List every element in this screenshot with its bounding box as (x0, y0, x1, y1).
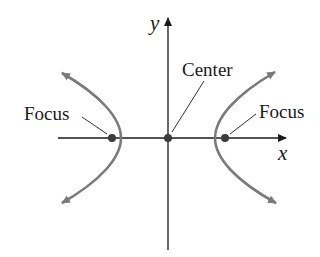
y-axis-label: y (148, 11, 160, 35)
focus-left-label: Focus (24, 103, 69, 124)
diagram-canvas: y x Center Focus Focus (0, 0, 320, 257)
hyperbola-left-branch-lower (62, 138, 121, 203)
hyperbola-diagram: y x Center Focus Focus (0, 0, 320, 257)
focus-right-leader-line (230, 114, 256, 134)
center-label: Center (182, 59, 233, 80)
focus-right-point (221, 134, 229, 142)
hyperbola-left-branch-upper (62, 73, 121, 138)
x-axis-label: x (277, 141, 288, 165)
focus-left-leader-line (82, 117, 107, 134)
hyperbola-right-branch-lower (215, 138, 276, 203)
center-point (164, 134, 172, 142)
focus-left-point (108, 134, 116, 142)
center-leader-line (172, 81, 204, 132)
focus-right-label: Focus (259, 101, 304, 122)
